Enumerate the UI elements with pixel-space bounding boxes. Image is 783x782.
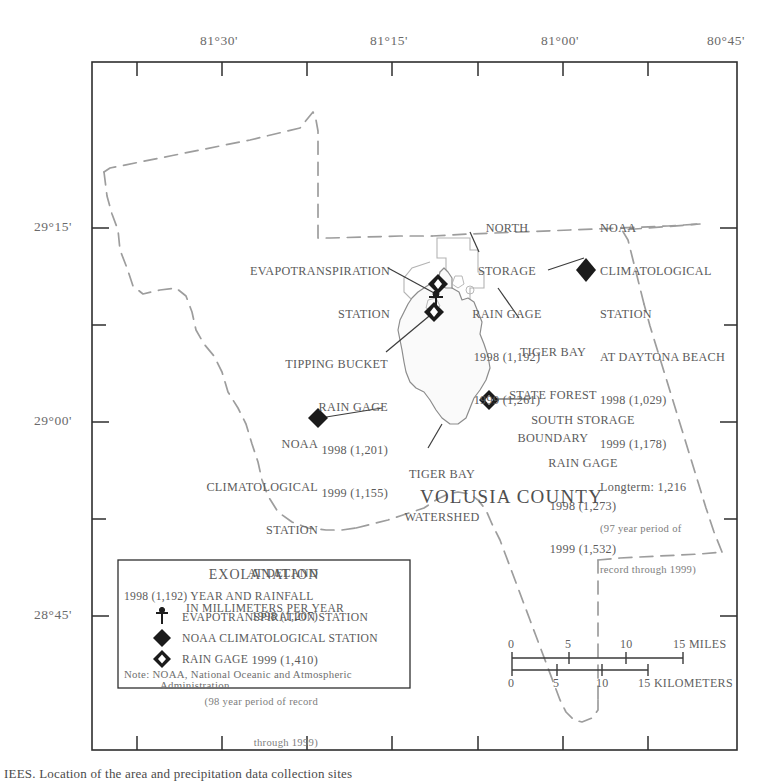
scale-km-tick-0: 0	[508, 676, 514, 690]
axis-label-latitude-3: 28°45'	[34, 607, 72, 623]
noaa-daytona-line-1: NOAA	[600, 221, 750, 235]
scale-km-tick-15: 15 KILOMETERS	[638, 676, 733, 690]
figure-caption: IEES. Location of the area and precipita…	[4, 766, 352, 782]
south-storage-line-1: SOUTH STORAGE	[518, 413, 648, 427]
scale-miles-tick-5: 5	[565, 637, 571, 651]
south-storage-line-4: 1999 (1,532)	[518, 542, 648, 556]
axis-label-longitude-3: 81°00'	[541, 33, 579, 49]
county-name-label: VOLUSIA COUNTY	[420, 486, 603, 508]
axis-label-latitude-1: 29°15'	[34, 219, 72, 235]
noaa-daytona-line-3: STATION	[600, 307, 750, 321]
evapotranspiration-line-2: STATION	[198, 307, 390, 321]
tiger-bay-forest-line-1: TIGER BAY	[497, 345, 609, 359]
scale-miles-tick-15: 15 MILES	[673, 637, 726, 651]
north-storage-line-2: STORAGE	[452, 264, 562, 278]
scale-miles-tick-0: 0	[508, 637, 514, 651]
evapotranspiration-line-1: EVAPOTRANSPIRATION	[198, 264, 390, 278]
legend-item-label-evapotranspiration: EVAPOTRANSPIRATION STATION	[182, 611, 368, 625]
noaa-deland-line-8: through 1999)	[128, 737, 318, 750]
noaa-daytona-line-2: CLIMATOLOGICAL	[600, 264, 750, 278]
noaa-deland-line-3: STATION	[128, 523, 318, 537]
tiger-bay-watershed-line-1: TIGER BAY	[382, 467, 502, 481]
axis-label-longitude-1: 81°30'	[200, 33, 238, 49]
axis-label-longitude-2: 81°15'	[370, 33, 408, 49]
north-storage-line-1: NORTH	[452, 221, 562, 235]
axis-label-longitude-4: 80°45'	[707, 33, 745, 49]
scale-km-tick-10: 10	[596, 676, 609, 690]
noaa-deland-line-7: (98 year period of record	[128, 696, 318, 709]
legend-item-label-rain-gage: RAIN GAGE	[182, 653, 248, 667]
legend-note-line-1: Note: NOAA, National Oceanic and Atmosph…	[124, 668, 352, 681]
legend-item-label-noaa-station: NOAA CLIMATOLOGICAL STATION	[182, 632, 378, 646]
noaa-deland-line-2: CLIMATOLOGICAL	[128, 480, 318, 494]
tiger-bay-watershed-line-2: WATERSHED	[382, 510, 502, 524]
south-storage-line-2: RAIN GAGE	[518, 456, 648, 470]
noaa-deland-line-1: NOAA	[128, 437, 318, 451]
tipping-bucket-line-1: TIPPING BUCKET	[228, 357, 388, 371]
scale-km-tick-5: 5	[553, 676, 559, 690]
annotation-south-storage-rain-gage: SOUTH STORAGE RAIN GAGE 1998 (1,273) 199…	[518, 384, 648, 585]
legend-note-line-2: Administration	[160, 679, 230, 692]
scale-miles-tick-10: 10	[620, 637, 633, 651]
noaa-daytona-line-4: AT DAYTONA BEACH	[600, 350, 750, 364]
legend-title: EXOLANATION	[118, 567, 410, 584]
axis-label-latitude-2: 29°00'	[34, 413, 72, 429]
